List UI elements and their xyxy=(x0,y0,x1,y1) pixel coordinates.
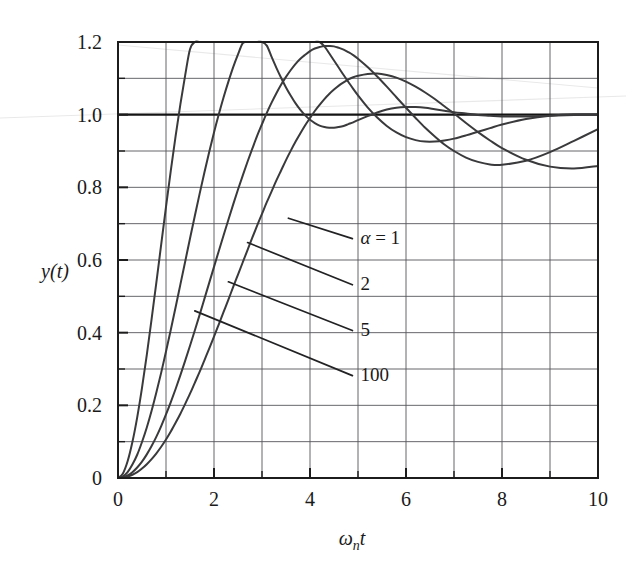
curve-label-alpha-100: 100 xyxy=(360,364,389,385)
x-tick-label: 8 xyxy=(497,488,507,510)
y-tick-label: 0.2 xyxy=(77,394,102,416)
y-tick-label: 0.8 xyxy=(77,176,102,198)
curve-label-alpha-5: 5 xyxy=(360,319,370,340)
x-tick-label: 4 xyxy=(305,488,315,510)
y-axis-title: y(t) xyxy=(39,260,69,283)
y-tick-label: 0.6 xyxy=(77,249,102,271)
y-tick-label: 1.0 xyxy=(77,104,102,126)
y-tick-label: 0.4 xyxy=(77,322,102,344)
x-tick-label: 6 xyxy=(401,488,411,510)
x-axis-title-variable: t xyxy=(360,527,366,549)
x-axis-title-subscript: n xyxy=(353,538,360,553)
x-axis-title-omega: ω xyxy=(339,527,353,549)
x-tick-label: 0 xyxy=(113,488,123,510)
step-response-plot: 0246810 00.20.40.60.81.01.2 α = 125100 y… xyxy=(0,0,626,571)
x-tick-label: 2 xyxy=(209,488,219,510)
curve-label-alpha-equals-1: α = 1 xyxy=(360,227,400,248)
x-tick-label: 10 xyxy=(588,488,608,510)
y-tick-label: 1.2 xyxy=(77,31,102,53)
y-tick-label: 0 xyxy=(92,467,102,489)
figure-container: 0246810 00.20.40.60.81.01.2 α = 125100 y… xyxy=(0,0,626,571)
curve-label-alpha-2: 2 xyxy=(360,273,370,294)
